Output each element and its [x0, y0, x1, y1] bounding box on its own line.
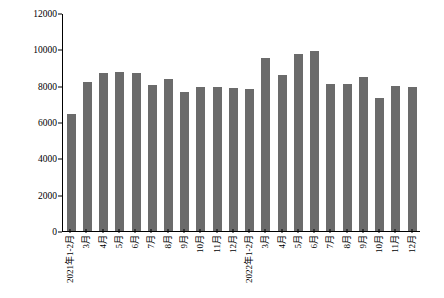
x-axis-tick-label: 6月 — [310, 235, 319, 249]
bar — [261, 58, 270, 231]
x-label-slot: 7月 — [322, 233, 338, 295]
x-axis-tick-label: 3月 — [261, 235, 270, 249]
x-label-slot: 3月 — [257, 233, 273, 295]
bar — [359, 77, 368, 231]
y-axis-tick-label: 8000 — [38, 82, 57, 92]
x-axis-tick-mark — [281, 229, 282, 233]
bar-slot — [404, 14, 420, 231]
x-axis-tick-label: 2021年1-2月 — [66, 235, 75, 283]
x-axis-tick-mark — [411, 229, 412, 233]
bar-slot — [339, 14, 355, 231]
x-axis-tick-label: 12月 — [228, 235, 237, 253]
x-axis-tick-mark — [135, 229, 136, 233]
x-axis-tick-mark — [249, 229, 250, 233]
bar — [375, 98, 384, 231]
bar — [115, 72, 124, 231]
bar-slot — [371, 14, 387, 231]
x-axis-tick-mark — [102, 229, 103, 233]
bar-series — [63, 14, 420, 231]
x-axis-tick-mark — [167, 229, 168, 233]
bar-slot — [258, 14, 274, 231]
bar — [196, 87, 205, 231]
x-label-slot: 6月 — [127, 233, 143, 295]
plot-area — [62, 14, 420, 232]
x-axis-tick-labels: 2021年1-2月3月4月5月6月7月8月9月10月11月12月2022年1-2… — [62, 233, 420, 295]
x-axis-tick-mark — [314, 229, 315, 233]
x-label-slot: 9月 — [176, 233, 192, 295]
bar — [294, 54, 303, 231]
bar-slot — [307, 14, 323, 231]
x-axis-tick-label: 4月 — [277, 235, 286, 249]
x-label-slot: 5月 — [290, 233, 306, 295]
bar — [83, 82, 92, 231]
x-axis-tick-label: 5月 — [114, 235, 123, 249]
x-axis-tick-label: 9月 — [358, 235, 367, 249]
bar — [326, 84, 335, 231]
bar-slot — [388, 14, 404, 231]
x-label-slot: 7月 — [143, 233, 159, 295]
y-axis-tick-label: 0 — [52, 227, 57, 237]
x-axis-tick-mark — [151, 229, 152, 233]
x-axis-tick-mark — [346, 229, 347, 233]
bar — [99, 73, 108, 231]
bar — [310, 51, 319, 231]
bar — [343, 84, 352, 231]
x-axis-tick-label: 11月 — [212, 235, 221, 253]
bar — [229, 88, 238, 231]
x-axis-tick-mark — [362, 229, 363, 233]
x-label-slot: 5月 — [111, 233, 127, 295]
x-axis-tick-label: 10月 — [375, 235, 384, 253]
bar-slot — [290, 14, 306, 231]
x-label-slot: 2021年1-2月 — [62, 233, 78, 295]
bar — [391, 86, 400, 231]
x-axis-tick-label: 8月 — [342, 235, 351, 249]
x-label-slot: 4月 — [273, 233, 289, 295]
x-axis-tick-label: 8月 — [163, 235, 172, 249]
y-axis-tick-label: 6000 — [38, 118, 57, 128]
bar-slot — [355, 14, 371, 231]
x-axis-tick-label: 4月 — [98, 235, 107, 249]
x-label-slot: 10月 — [192, 233, 208, 295]
y-axis-tick-label: 4000 — [38, 154, 57, 164]
x-label-slot: 12月 — [404, 233, 420, 295]
y-axis-tick-label: 10000 — [33, 45, 57, 55]
x-axis-tick-mark — [118, 229, 119, 233]
bar — [245, 89, 254, 231]
x-axis-tick-mark — [183, 229, 184, 233]
x-axis-tick-label: 9月 — [179, 235, 188, 249]
bar-slot — [193, 14, 209, 231]
x-label-slot: 9月 — [355, 233, 371, 295]
x-axis-tick-mark — [297, 229, 298, 233]
x-axis-tick-label: 2022年1-2月 — [245, 235, 254, 283]
bar-slot — [95, 14, 111, 231]
bar — [67, 114, 76, 231]
x-axis-tick-label: 5月 — [293, 235, 302, 249]
bar — [213, 87, 222, 231]
bar-slot — [79, 14, 95, 231]
x-label-slot: 8月 — [339, 233, 355, 295]
x-label-slot: 11月 — [387, 233, 403, 295]
bar-slot — [274, 14, 290, 231]
bar — [278, 75, 287, 231]
bar-slot — [225, 14, 241, 231]
bar-slot — [128, 14, 144, 231]
y-axis-tick-label: 12000 — [33, 9, 57, 19]
x-label-slot: 6月 — [306, 233, 322, 295]
x-axis-tick-label: 7月 — [147, 235, 156, 249]
x-axis-tick-label: 7月 — [326, 235, 335, 249]
x-label-slot: 12月 — [225, 233, 241, 295]
bar-slot — [177, 14, 193, 231]
x-label-slot: 10月 — [371, 233, 387, 295]
bar-slot — [323, 14, 339, 231]
bar-slot — [209, 14, 225, 231]
x-axis-tick-mark — [232, 229, 233, 233]
y-axis-tick-label: 2000 — [38, 191, 57, 201]
bar — [132, 73, 141, 231]
x-axis-tick-label: 3月 — [82, 235, 91, 249]
bar — [180, 92, 189, 231]
bar-slot — [242, 14, 258, 231]
x-axis-tick-mark — [379, 229, 380, 233]
bar-slot — [63, 14, 79, 231]
x-axis-tick-mark — [216, 229, 217, 233]
bar — [164, 79, 173, 231]
